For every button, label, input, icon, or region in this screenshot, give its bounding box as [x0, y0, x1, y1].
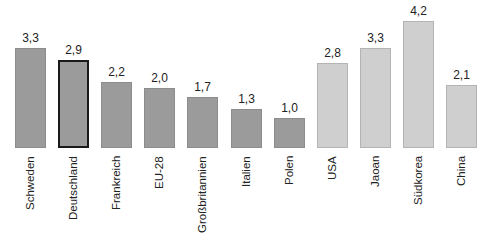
bar-polen [274, 118, 305, 148]
bar-jaoan [360, 48, 391, 148]
category-label: Deutschland [67, 156, 79, 220]
category-label: Südkorea [412, 156, 424, 205]
category-label: Polen [283, 156, 295, 185]
category-label: USA [326, 156, 338, 180]
bar-chart: 3,3Schweden2,9Deutschland2,2Frankreich2,… [0, 0, 491, 237]
bar-china [446, 85, 477, 148]
category-label: Schweden [24, 156, 36, 210]
value-label: 2,1 [440, 68, 484, 82]
value-label: 1,3 [225, 92, 269, 106]
bar-schweden [15, 48, 46, 148]
bar-großbritannien [187, 97, 218, 148]
bar-deutschland [58, 60, 89, 148]
category-label: EU-28 [153, 156, 165, 189]
category-label: Jaoan [369, 156, 381, 187]
category-label: Großbritannien [196, 156, 208, 233]
value-label: 3,3 [354, 31, 398, 45]
category-label: China [455, 156, 467, 186]
category-label: Frankreich [110, 156, 122, 210]
value-label: 1,7 [181, 80, 225, 94]
bar-s-dkorea [403, 21, 434, 148]
bar-usa [317, 63, 348, 148]
value-label: 2,2 [95, 65, 139, 79]
bar-frankreich [101, 82, 132, 148]
category-label: Italien [240, 156, 252, 187]
value-label: 1,0 [268, 101, 312, 115]
bar-italien [231, 109, 262, 148]
value-label: 2,9 [52, 43, 96, 57]
value-label: 2,8 [311, 46, 355, 60]
value-label: 2,0 [138, 71, 182, 85]
value-label: 4,2 [397, 4, 441, 18]
bar-eu-28 [144, 88, 175, 148]
value-label: 3,3 [9, 31, 53, 45]
